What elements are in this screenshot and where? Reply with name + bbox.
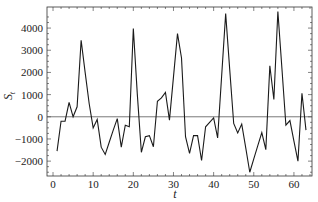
x-tick-label: 20 [128, 178, 140, 190]
x-tick-label: 10 [88, 178, 100, 190]
y-axis-label: St [1, 91, 17, 100]
svg-text:St: St [1, 91, 17, 100]
y-tick-label: 4000 [21, 22, 44, 34]
plot-border [47, 7, 312, 176]
data-series [57, 11, 306, 172]
x-tick-label: 0 [50, 178, 56, 190]
x-tick-label: 50 [248, 178, 260, 190]
y-tick-label: 3000 [21, 44, 44, 56]
y-tick-label: −1000 [15, 133, 44, 145]
x-tick-label: 40 [208, 178, 220, 190]
y-tick-label: 2000 [21, 66, 44, 78]
y-tick-label: 1000 [21, 89, 44, 101]
plot-frame [47, 7, 312, 176]
axis-ticks [47, 7, 312, 176]
series-line [57, 11, 306, 172]
y-axis-label-subscript: t [8, 91, 17, 94]
y-tick-label: −2000 [15, 155, 44, 167]
x-tick-label: 60 [288, 178, 300, 190]
line-chart: 0102030405060−2000−100001000200030004000… [0, 0, 318, 202]
y-tick-label: 0 [38, 111, 44, 123]
